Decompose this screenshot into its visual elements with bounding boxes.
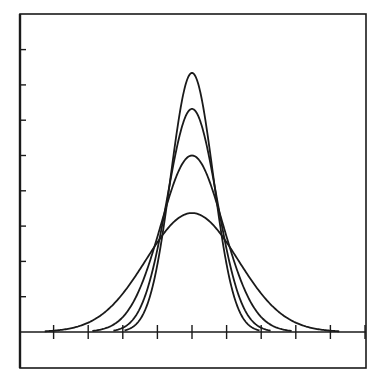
plot-frame xyxy=(20,14,366,368)
chart xyxy=(0,0,379,378)
